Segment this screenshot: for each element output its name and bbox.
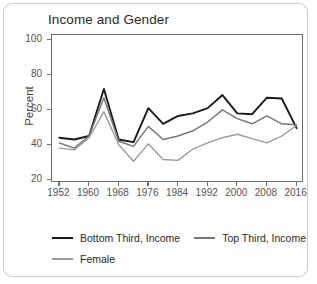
y-tick-label: 60 xyxy=(16,103,42,114)
legend-label-top-third: Top Third, Income xyxy=(222,232,306,244)
legend-swatch-top-third xyxy=(194,237,215,239)
chart-card: Income and Gender Percent 20406080100195… xyxy=(3,3,308,277)
legend-row-1: Bottom Third, Income Top Third, Income xyxy=(52,232,302,244)
legend-entry-bottom-third[interactable]: Bottom Third, Income xyxy=(52,232,180,244)
y-tick-label: 20 xyxy=(16,173,42,184)
plot-lines xyxy=(52,35,304,183)
chart-title: Income and Gender xyxy=(48,12,169,27)
legend-entry-top-third[interactable]: Top Third, Income xyxy=(194,232,306,244)
legend-swatch-bottom-third xyxy=(52,237,73,239)
plot-area xyxy=(51,34,303,182)
series-line xyxy=(59,89,296,142)
y-tick-label: 100 xyxy=(16,33,42,44)
legend-label-bottom-third: Bottom Third, Income xyxy=(80,232,180,244)
x-tick-label: 2016 xyxy=(276,187,316,198)
legend-swatch-female xyxy=(52,258,73,260)
chart-legend: Bottom Third, Income Top Third, Income F… xyxy=(52,232,302,274)
legend-label-female: Female xyxy=(80,253,115,265)
legend-entry-female[interactable]: Female xyxy=(52,253,115,265)
legend-row-2: Female xyxy=(52,253,302,265)
y-tick-label: 80 xyxy=(16,68,42,79)
y-tick-label: 40 xyxy=(16,138,42,149)
